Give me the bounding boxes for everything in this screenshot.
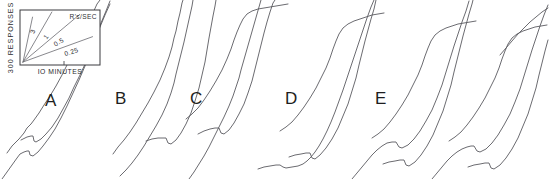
cumulative-trace-record-D-upper: [280, 13, 384, 131]
cumulative-trace-record-B-step: [146, 0, 216, 144]
inset-title-rs-per-sec: R's/SEC: [69, 13, 97, 20]
cumulative-trace-record-F-lower: [432, 5, 548, 179]
cumulative-trace-record-F-upper: [449, 25, 547, 141]
x-axis-label-minutes: IO MINUTES: [38, 68, 83, 75]
record-letter-group: ABCDE: [45, 89, 387, 110]
cumulative-trace-record-F-step: [468, 40, 548, 169]
record-label-a: A: [45, 91, 57, 110]
cumulative-trace-record-D-step: [289, 0, 376, 159]
record-label-c: C: [190, 89, 203, 108]
cumulative-trace-record-C-step: [198, 0, 275, 134]
cumulative-trace-record-tail-right: [500, 8, 548, 55]
y-axis-label-responses: 300 RESPONSES: [6, 2, 15, 74]
record-label-d: D: [285, 89, 298, 108]
cumulative-trace-record-E-step: [383, 0, 473, 166]
cumulative-trace-record-D-lower: [258, 0, 374, 169]
rate-calibration-inset: 310.50.25 R's/SEC: [20, 10, 100, 65]
figure-canvas: 310.50.25 R's/SEC 300 RESPONSES IO MINUT…: [0, 0, 549, 179]
cumulative-record-figure: 310.50.25 R's/SEC 300 RESPONSES IO MINUT…: [0, 0, 549, 179]
record-label-e: E: [375, 89, 387, 108]
cumulative-trace-record-E-upper: [372, 21, 476, 138]
cumulative-trace-record-B-upper: [113, 0, 183, 154]
record-label-b: B: [115, 89, 127, 108]
